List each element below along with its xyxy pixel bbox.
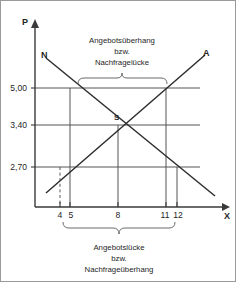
- supply-curve-label: A: [203, 48, 210, 58]
- brace-surplus: [78, 73, 167, 84]
- ytick-label-500: 5,00: [10, 83, 27, 93]
- supply-demand-chart: P X N A S 5,00 3,40 2,70 4 5 8 11 12 Ang…: [0, 0, 236, 282]
- y-axis-label: P: [22, 17, 28, 27]
- xtick-label-5: 5: [69, 210, 74, 220]
- x-axis-label: X: [224, 211, 230, 221]
- surplus-note-line1: Angebotsüberhang: [89, 36, 155, 45]
- brace-shortage: [63, 222, 175, 234]
- xtick-label-4: 4: [58, 210, 63, 220]
- x-axis-arrow: [222, 203, 230, 211]
- surplus-note-line3: Nachfragelücke: [95, 58, 149, 67]
- xtick-label-12: 12: [173, 210, 183, 220]
- ytick-label-270: 2,70: [10, 162, 27, 172]
- shortage-note-line3: Nachfrageüberhang: [85, 265, 154, 274]
- equilibrium-label: S: [114, 113, 120, 122]
- xtick-label-8: 8: [116, 210, 121, 220]
- surplus-note-line2: bzw.: [114, 47, 130, 56]
- shortage-note-line1: Angebotslücke: [93, 243, 144, 252]
- demand-curve-label: N: [41, 50, 48, 60]
- ytick-label-340: 3,40: [10, 120, 27, 130]
- y-axis-arrow: [31, 19, 39, 28]
- xtick-label-11: 11: [161, 210, 170, 220]
- shortage-note-line2: bzw.: [111, 254, 127, 263]
- demand-curve: [46, 58, 215, 196]
